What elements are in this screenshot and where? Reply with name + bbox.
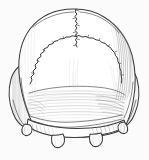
occipital-condyle-left	[52, 134, 65, 148]
basal-process-right	[118, 122, 127, 134]
basal-process-left	[22, 124, 32, 136]
occipital-condyle-right	[90, 133, 103, 147]
figure-container	[0, 0, 149, 160]
skull-posterior-view-drawing	[0, 0, 149, 160]
